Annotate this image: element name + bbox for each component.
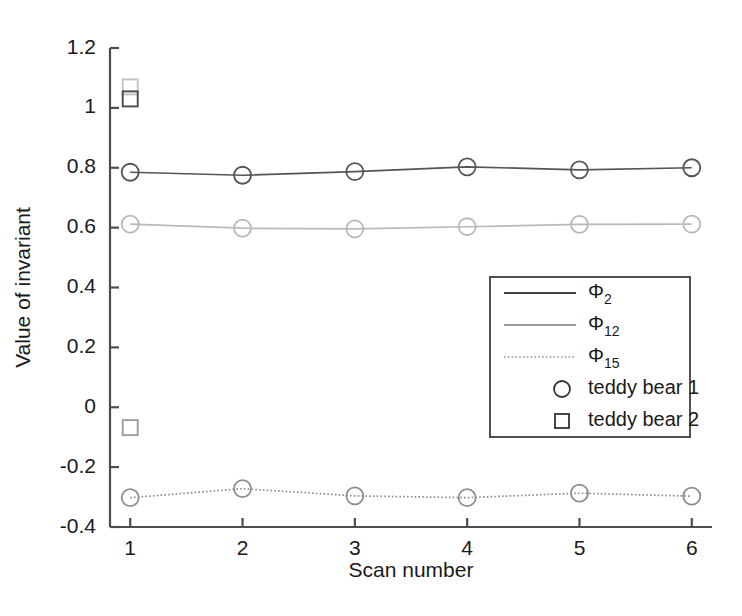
chart-container: 1.210.80.60.40.20-0.2-0.4123456Scan numb…	[0, 0, 742, 616]
legend-label: teddy bear 2	[588, 408, 699, 430]
y-axis-tick-label: 0.2	[67, 334, 96, 357]
x-axis-tick-label: 1	[124, 536, 136, 559]
x-axis-title: Scan number	[349, 558, 474, 581]
y-axis-tick-label: 1.2	[67, 35, 96, 58]
invariant-value-line-chart: 1.210.80.60.40.20-0.2-0.4123456Scan numb…	[0, 0, 742, 616]
data-point-square	[123, 420, 138, 435]
y-axis-tick-label: 0.6	[67, 214, 96, 237]
series-line-2	[130, 489, 692, 498]
legend-symbol-base: Φ	[588, 344, 604, 366]
y-axis-tick-label: 0.8	[67, 154, 96, 177]
legend-symbol-subscript: 15	[604, 355, 620, 371]
legend-symbol-base: Φ	[588, 280, 604, 302]
series-line-1	[130, 224, 692, 229]
y-axis-tick-label: 0.4	[67, 274, 97, 297]
y-axis-title: Value of invariant	[11, 207, 34, 368]
legend-symbol-subscript: 12	[604, 323, 620, 339]
x-axis-tick-label: 4	[461, 536, 473, 559]
x-axis-tick-label: 5	[574, 536, 586, 559]
y-axis-tick-label: -0.4	[60, 514, 97, 537]
legend-symbol-subscript: 2	[604, 291, 612, 307]
x-axis-tick-label: 6	[686, 536, 698, 559]
series-line-0	[130, 167, 692, 175]
x-axis-tick-label: 2	[237, 536, 249, 559]
x-axis-tick-label: 3	[349, 536, 361, 559]
legend-label: teddy bear 1	[588, 376, 699, 398]
y-axis-tick-label: 1	[84, 94, 96, 117]
legend-symbol-base: Φ	[588, 312, 604, 334]
y-axis-tick-label: -0.2	[60, 454, 96, 477]
y-axis-tick-label: 0	[84, 394, 96, 417]
